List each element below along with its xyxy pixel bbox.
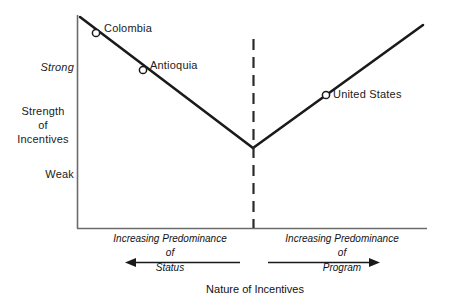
series-line-status-arm — [80, 17, 253, 148]
data-point-marker-antioquia — [139, 66, 146, 73]
y-axis-tick-strong: Strong — [28, 61, 74, 74]
data-point-marker-colombia — [92, 29, 99, 36]
x-axis-right-line-2: of — [258, 246, 426, 260]
y-axis-title-line-2: of — [12, 118, 74, 132]
x-axis-left-line-1: Increasing Predominance — [86, 232, 254, 246]
x-axis-title: Nature of Incentives — [150, 283, 360, 295]
data-point-marker-united-states — [322, 91, 329, 98]
data-point-label-united-states: United States — [333, 88, 402, 101]
y-axis-tick-weak: Weak — [28, 168, 74, 181]
x-axis-right-line-3: Program — [258, 261, 426, 275]
x-axis-left-line-3: Status — [86, 261, 254, 275]
x-axis-left-block: Increasing Predominance of Status — [86, 232, 254, 275]
x-axis-right-block: Increasing Predominance of Program — [258, 232, 426, 275]
x-axis-right-line-1: Increasing Predominance — [258, 232, 426, 246]
data-point-label-colombia: Colombia — [104, 22, 152, 35]
data-point-label-antioquia: Antioquia — [150, 59, 198, 72]
y-axis-title: Strength of Incentives — [12, 104, 74, 146]
x-axis-left-line-2: of — [86, 246, 254, 260]
y-axis-title-line-3: Incentives — [12, 132, 74, 146]
series-line-program-arm — [253, 25, 423, 148]
y-axis-title-line-1: Strength — [12, 104, 74, 118]
chart-figure: Strong Weak Strength of Incentives Colom… — [0, 0, 449, 305]
